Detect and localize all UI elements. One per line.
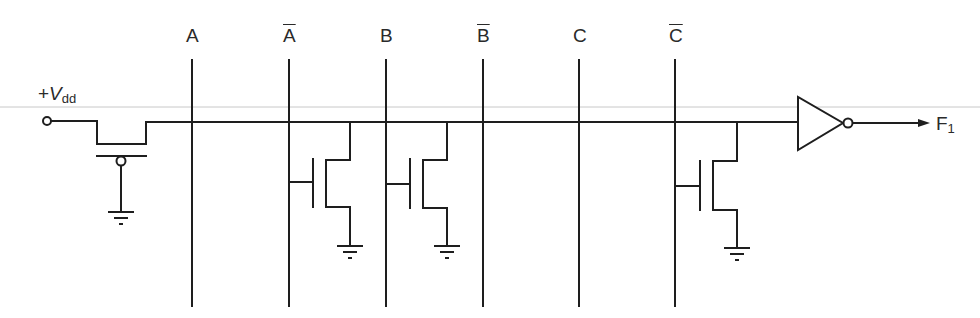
supply-prefix: +: [38, 83, 49, 104]
nmos-transistor-c-bar: [675, 122, 749, 260]
output-arrow-icon: [918, 119, 930, 127]
nmos-transistor-b-bar: [386, 122, 459, 258]
supply-label: +Vdd: [38, 84, 76, 105]
output-symbol: F: [936, 113, 948, 134]
nmos-transistor-a-bar: [289, 122, 362, 258]
input-label-c-bar: C: [669, 26, 683, 45]
input-label-a: A: [186, 26, 199, 45]
input-label-b: B: [380, 26, 393, 45]
supply-subscript: dd: [62, 91, 76, 106]
inverter-icon: [798, 97, 853, 150]
vdd-terminal-icon: [43, 117, 51, 125]
supply-symbol: V: [49, 83, 62, 104]
output-label: F1: [936, 114, 955, 135]
circuit-diagram: [0, 0, 980, 318]
output-subscript: 1: [948, 121, 955, 136]
input-label-c: C: [573, 26, 587, 45]
input-label-b-bar: B: [477, 26, 490, 45]
pull-up-gate-bubble-icon: [117, 157, 126, 166]
ground-icon: [109, 212, 133, 224]
pull-up-transistor: [51, 121, 800, 144]
input-label-a-bar: A: [283, 26, 296, 45]
